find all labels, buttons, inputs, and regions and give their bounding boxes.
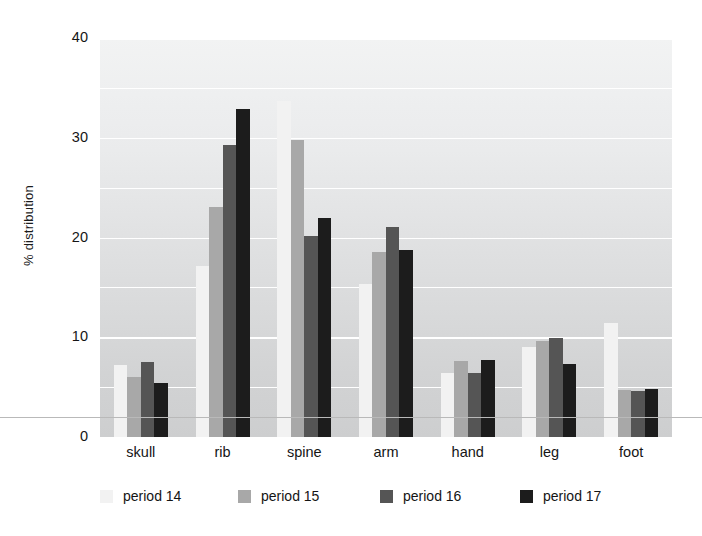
legend-label: period 15 (261, 489, 319, 503)
y-tick-label: 20 (42, 230, 88, 245)
bar (359, 284, 373, 437)
bar (618, 390, 632, 437)
x-axis-label-hand: hand (452, 444, 484, 460)
bar (196, 266, 210, 437)
bar-group (100, 38, 182, 437)
bar (631, 391, 645, 437)
bar-group (590, 38, 672, 437)
y-tick-label: 0 (42, 429, 88, 444)
x-axis-label-foot: foot (619, 444, 643, 460)
bar (127, 377, 141, 437)
bar (481, 360, 495, 437)
page-horizontal-rule (0, 417, 702, 418)
legend-swatch-icon (380, 490, 393, 503)
legend-item-period-16[interactable]: period 16 (380, 489, 461, 503)
x-axis-label-spine: spine (287, 444, 322, 460)
bar-chart-figure: % distribution 010203040 skullribspinear… (0, 0, 702, 536)
bar (277, 101, 291, 437)
legend-item-period-14[interactable]: period 14 (100, 489, 181, 503)
bar (441, 373, 455, 437)
bar (454, 361, 468, 437)
y-tick-label: 40 (42, 30, 88, 45)
y-tick-label: 10 (42, 329, 88, 344)
chart-legend: period 14period 15period 16period 17 (100, 489, 672, 509)
legend-label: period 16 (403, 489, 461, 503)
legend-swatch-icon (100, 490, 113, 503)
bar (522, 347, 536, 437)
bar-group (427, 38, 509, 437)
x-axis-label-leg: leg (540, 444, 559, 460)
bar (236, 109, 250, 437)
y-axis-tick-labels: 010203040 (24, 0, 88, 536)
legend-label: period 17 (543, 489, 601, 503)
bar (372, 252, 386, 437)
bar-group (182, 38, 264, 437)
legend-swatch-icon (238, 490, 251, 503)
bar (536, 341, 550, 437)
bar (114, 365, 128, 437)
bar (304, 236, 318, 437)
bar-group (345, 38, 427, 437)
bar (209, 207, 223, 437)
bar (386, 227, 400, 437)
bars-layer (100, 38, 672, 437)
bar (549, 338, 563, 437)
y-tick-label: 30 (42, 130, 88, 145)
bar (563, 364, 577, 437)
legend-label: period 14 (123, 489, 181, 503)
x-axis-category-labels: skullribspinearmhandlegfoot (100, 444, 672, 466)
bar-group (509, 38, 591, 437)
x-axis-label-arm: arm (374, 444, 399, 460)
bar (154, 383, 168, 437)
bar (468, 373, 482, 437)
bar (223, 145, 237, 437)
bar (318, 218, 332, 437)
legend-swatch-icon (520, 490, 533, 503)
bar (291, 140, 305, 437)
legend-item-period-17[interactable]: period 17 (520, 489, 601, 503)
bar-group (263, 38, 345, 437)
legend-item-period-15[interactable]: period 15 (238, 489, 319, 503)
bar (645, 389, 659, 437)
bar (399, 250, 413, 437)
bar (141, 362, 155, 437)
x-axis-label-rib: rib (215, 444, 231, 460)
plot-area (100, 38, 672, 437)
x-axis-label-skull: skull (126, 444, 155, 460)
bar (604, 323, 618, 437)
